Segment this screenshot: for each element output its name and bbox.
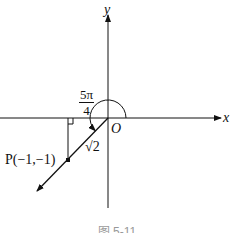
- angle-label: 5π 4: [79, 88, 94, 117]
- figure-caption: 图 5-11: [0, 222, 234, 233]
- origin-label: O: [111, 122, 121, 136]
- point-p: [66, 158, 70, 162]
- x-axis-label: x: [223, 111, 229, 125]
- right-angle-mark: [68, 118, 73, 124]
- angle-denominator: 4: [79, 103, 94, 117]
- diagram-canvas: [0, 0, 234, 233]
- y-axis-label: y: [104, 3, 110, 17]
- segment-length-label: √2: [85, 140, 100, 154]
- angle-numerator: 5π: [79, 88, 94, 103]
- coordinate-diagram: y x O 5π 4 √2 P(−1,−1) 图 5-11: [0, 0, 234, 233]
- point-p-label: P(−1,−1): [5, 153, 55, 167]
